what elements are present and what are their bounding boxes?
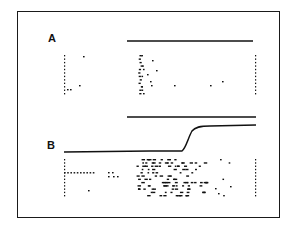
panel-b-raster <box>64 159 256 196</box>
panel-a-raster <box>64 55 256 94</box>
raster-figure <box>0 0 296 228</box>
panel-b-step-trace <box>64 125 256 152</box>
